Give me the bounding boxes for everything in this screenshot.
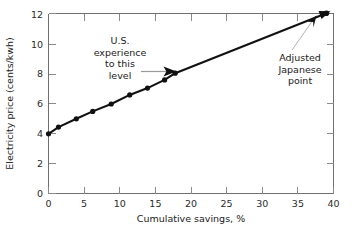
y-tick-label-10: 10 bbox=[31, 39, 43, 50]
x-tick-label-30: 30 bbox=[256, 198, 268, 209]
y-tick-label-6: 6 bbox=[37, 98, 43, 109]
y-tick-label-8: 8 bbox=[37, 68, 43, 79]
y-tick-label-4: 4 bbox=[37, 128, 43, 139]
x-tick-label-0: 0 bbox=[45, 198, 51, 209]
japanese-annotation-line-1: Adjusted bbox=[279, 52, 321, 63]
us-annotation-line-1: U.S. bbox=[110, 35, 129, 46]
x-tick-label-35: 35 bbox=[292, 198, 304, 209]
x-tick-label-5: 5 bbox=[81, 198, 87, 209]
x-tick-label-10: 10 bbox=[114, 198, 126, 209]
data-point bbox=[109, 101, 114, 106]
data-point bbox=[145, 86, 150, 91]
us-annotation-line-4: level bbox=[109, 70, 132, 81]
data-point bbox=[74, 116, 79, 121]
data-point bbox=[46, 131, 51, 136]
data-point bbox=[56, 125, 61, 130]
us-annotation-line-3: to this bbox=[105, 58, 135, 69]
y-tick-label-0: 0 bbox=[37, 188, 43, 199]
japanese-annotation-line-2: Japanese bbox=[277, 64, 321, 75]
data-point-japanese bbox=[324, 11, 330, 17]
x-tick-label-20: 20 bbox=[185, 198, 197, 209]
y-tick-label-2: 2 bbox=[37, 158, 43, 169]
data-point bbox=[90, 109, 95, 114]
data-point bbox=[127, 92, 132, 97]
chart-root: 0 2 4 6 8 10 12 0 5 10 15 20 25 30 35 40… bbox=[0, 0, 352, 237]
japanese-annotation-line-3: point bbox=[288, 75, 313, 86]
x-tick-label-15: 15 bbox=[149, 198, 161, 209]
x-tick-label-25: 25 bbox=[221, 198, 233, 209]
electricity-price-line-chart: 0 2 4 6 8 10 12 0 5 10 15 20 25 30 35 40… bbox=[0, 0, 352, 237]
x-tick-label-40: 40 bbox=[327, 198, 339, 209]
y-axis-title: Electricity price (cents/kwh) bbox=[4, 37, 15, 170]
data-point bbox=[162, 77, 167, 82]
us-annotation-line-2: experience bbox=[94, 47, 147, 58]
y-tick-label-12: 12 bbox=[31, 9, 43, 20]
x-axis-title: Cumulative savings, % bbox=[137, 213, 245, 224]
